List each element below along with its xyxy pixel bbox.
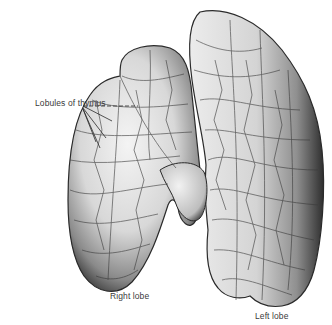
label-right-lobe: Right lobe	[110, 291, 149, 301]
label-lobules-of-thymus: Lobules of thymus	[35, 98, 106, 108]
thymus-illustration	[0, 0, 332, 325]
left-lobe-shape	[190, 11, 324, 307]
right-lobe-shape	[68, 46, 207, 292]
label-left-lobe: Left lobe	[255, 311, 289, 321]
